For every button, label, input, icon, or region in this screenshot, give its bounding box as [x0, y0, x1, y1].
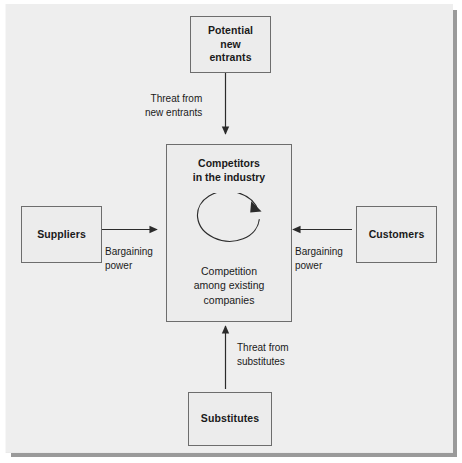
node-substitutes-label: Substitutes: [201, 412, 259, 426]
edge-label-threat-from-new-entrants: Threat fromnew entrants: [145, 92, 202, 119]
node-potential-new-entrants-label: Potentialnewentrants: [208, 24, 253, 66]
node-substitutes[interactable]: Substitutes: [188, 392, 272, 446]
node-suppliers[interactable]: Suppliers: [21, 206, 102, 263]
edge-label-threat-from-substitutes: Threat fromsubstitutes: [237, 341, 289, 368]
edge-label-bargaining-power-customers: Bargainingpower: [295, 245, 343, 272]
node-customers[interactable]: Customers: [356, 206, 437, 263]
five-forces-figure: Potentialnewentrants Suppliers Customers…: [0, 0, 462, 463]
circular-rivalry-arrow-icon: [179, 193, 279, 257]
node-customers-label: Customers: [369, 228, 425, 242]
node-competitors-subtitle: Competitionamong existingcompanies: [167, 264, 291, 307]
diagram-panel: Potentialnewentrants Suppliers Customers…: [5, 4, 453, 453]
node-competitors-in-the-industry[interactable]: Competitorsin the industry Competitionam…: [166, 144, 292, 322]
node-competitors-title: Competitorsin the industry: [167, 156, 291, 184]
node-potential-new-entrants[interactable]: Potentialnewentrants: [190, 16, 271, 73]
edge-label-bargaining-power-suppliers: Bargainingpower: [105, 245, 153, 272]
node-suppliers-label: Suppliers: [37, 228, 86, 242]
